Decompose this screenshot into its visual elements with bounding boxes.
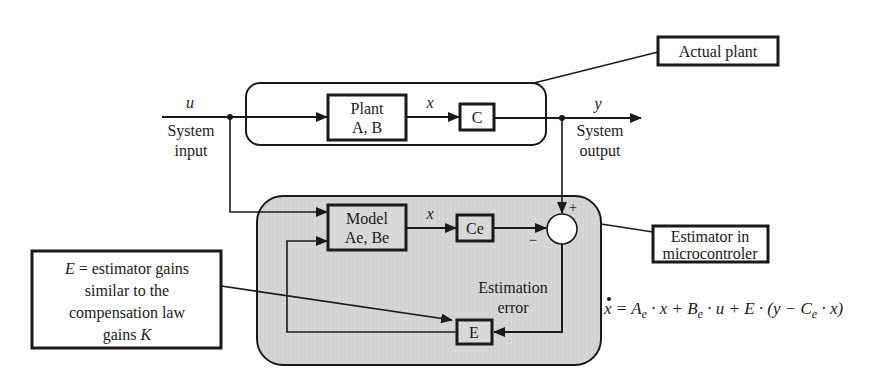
summing-junction <box>547 214 577 244</box>
estimator-leader <box>601 224 653 232</box>
input-label-1: System <box>167 122 215 140</box>
sum-plus-sign: + <box>569 200 577 215</box>
plant-block-label-2: A, B <box>352 119 382 136</box>
output-label-1: System <box>576 122 624 140</box>
output-label-2: output <box>580 142 621 160</box>
input-label-2: input <box>175 142 208 160</box>
estimator-block-diagram: Plant A, B x C u System input y System o… <box>0 0 871 385</box>
estimated-state-x-label: x <box>425 205 433 222</box>
equation-text: x = Ae · x + Be · u + E · (y − Ce · x) <box>603 299 843 321</box>
estimator-label-2: microcontroler <box>662 245 758 262</box>
input-symbol-u: u <box>186 94 194 111</box>
actual-plant-label: Actual plant <box>679 43 758 61</box>
gains-label-4: gains K <box>103 326 153 344</box>
gains-label-2: similar to the <box>85 282 169 299</box>
model-block-label-2: Ae, Be <box>345 229 389 246</box>
gains-label-1: E = estimator gains <box>64 260 189 278</box>
plant-block-label-1: Plant <box>351 100 384 117</box>
estimation-error-label-1: Estimation <box>478 279 547 296</box>
ce-block-label: Ce <box>466 220 484 237</box>
state-x-label: x <box>425 94 433 111</box>
gains-label-3: compensation law <box>69 304 185 322</box>
e-block-label: E <box>469 324 479 341</box>
model-block-label-1: Model <box>346 210 388 227</box>
c-block-label: C <box>472 109 483 126</box>
estimator-equation: x = Ae · x + Be · u + E · (y − Ce · x) <box>603 297 843 321</box>
estimation-error-label-2: error <box>497 299 529 316</box>
output-symbol-y: y <box>592 95 602 113</box>
sum-minus-sign: − <box>529 232 537 248</box>
estimator-label-1: Estimator in <box>671 228 750 245</box>
actual-plant-leader <box>534 52 658 83</box>
